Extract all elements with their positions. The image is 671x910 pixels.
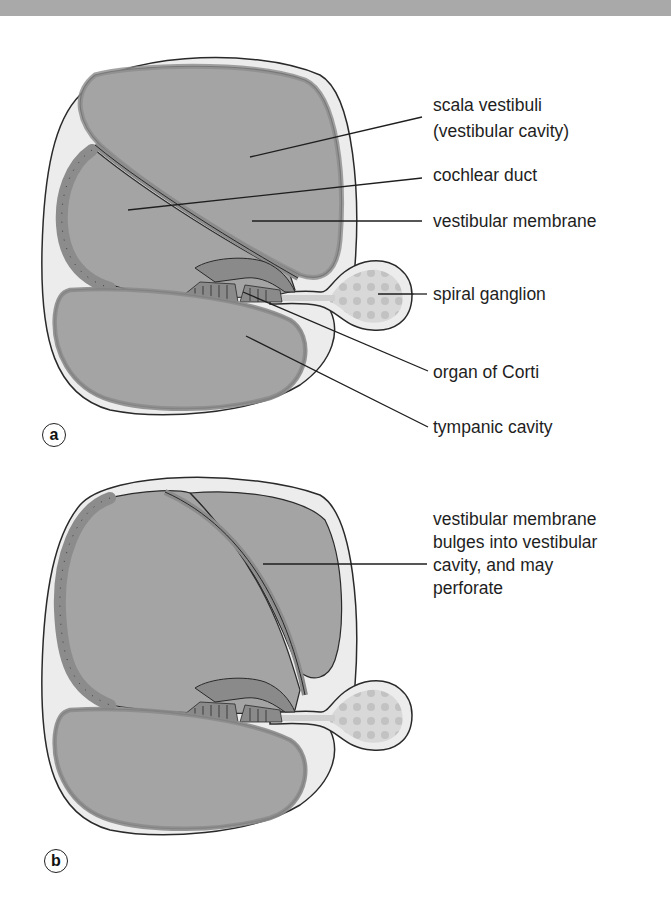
label-vestibular-membrane: vestibular membrane xyxy=(433,210,596,232)
panel-b-diagram xyxy=(42,477,427,834)
cochlea-diagram xyxy=(0,0,671,910)
annotation-line-2: bulges into vestibular xyxy=(433,531,597,553)
label-cochlear-duct: cochlear duct xyxy=(433,164,537,186)
panel-a-diagram xyxy=(42,58,428,427)
annotation-line-3: cavity, and may xyxy=(433,554,553,576)
annotation-line-1: vestibular membrane xyxy=(433,508,596,530)
label-scala-vestibuli: scala vestibuli xyxy=(433,94,542,116)
label-vestibular-cavity: (vestibular cavity) xyxy=(433,120,569,142)
label-tympanic-cavity: tympanic cavity xyxy=(433,416,553,438)
panel-a-badge: a xyxy=(42,423,66,447)
label-organ-of-corti: organ of Corti xyxy=(433,361,539,383)
panel-b-badge: b xyxy=(44,849,68,873)
annotation-line-4: perforate xyxy=(433,577,503,599)
label-spiral-ganglion: spiral ganglion xyxy=(433,283,546,305)
